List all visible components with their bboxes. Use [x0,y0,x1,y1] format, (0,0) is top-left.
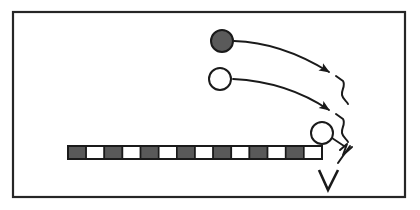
barrier-segment [304,146,322,159]
barrier-segment [159,146,177,159]
squiggle-mark-middle [336,114,348,142]
diagram-border [13,12,405,197]
barrier-segment [286,146,304,159]
diagram-canvas [0,0,420,210]
trajectory-arrow-lower [233,79,329,110]
barrier-segment [249,146,267,159]
squiggle-mark-tail [338,146,350,163]
barrier-segment [141,146,159,159]
vee-mark [319,170,338,190]
barrier-segment [213,146,231,159]
barrier-segment [86,146,104,159]
open-ball [209,68,231,90]
lower-open-ball [311,122,333,144]
barrier-segment [177,146,195,159]
filled-ball [211,30,233,52]
ball-to-squiggle-connector [332,138,344,146]
checkered-barrier [68,146,322,159]
barrier-segment [122,146,140,159]
squiggle-marks [336,76,352,163]
barrier-segment [268,146,286,159]
barrier-segment [104,146,122,159]
squiggle-mark-upper [336,76,348,104]
barrier-segment [231,146,249,159]
trajectory-arrow-upper [234,41,329,72]
barrier-segment [195,146,213,159]
barrier-segment [68,146,86,159]
diagram-svg [0,0,420,210]
